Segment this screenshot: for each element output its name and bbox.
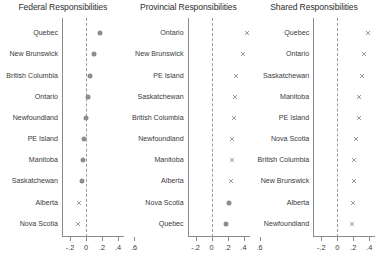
category-label: British Columbia xyxy=(6,72,58,80)
x-tick-label: .2 xyxy=(350,243,356,252)
category-label: Alberta xyxy=(287,199,309,207)
category-label: Ontario xyxy=(35,93,58,101)
x-axis-line xyxy=(62,236,124,237)
category-label: Newfoundland xyxy=(138,135,183,143)
data-point-cross xyxy=(76,221,81,226)
category-label: Alberta xyxy=(161,177,183,185)
category-label: Quebec xyxy=(33,29,58,37)
data-point-cross xyxy=(228,179,233,184)
x-tick-label: -.2 xyxy=(66,243,75,252)
x-tick-label: -.2 xyxy=(317,243,326,252)
panel-title: Provincial Responsibilities xyxy=(126,2,252,12)
x-tick xyxy=(353,237,354,241)
x-tick-label: -.2 xyxy=(191,243,200,252)
x-tick xyxy=(228,237,229,241)
y-axis-line xyxy=(188,18,189,237)
x-tick xyxy=(118,237,119,241)
category-label: PE Island xyxy=(28,135,58,143)
panel-title: Federal Responsibilities xyxy=(0,2,126,12)
data-point-cross xyxy=(356,115,361,120)
data-point-cross xyxy=(230,137,235,142)
x-tick-label: 0 xyxy=(210,243,214,252)
data-point-cross xyxy=(229,158,234,163)
data-point-cross xyxy=(351,179,356,184)
y-axis-line xyxy=(313,18,314,237)
data-point-circle xyxy=(79,179,84,184)
category-label: New Brunswick xyxy=(10,50,59,58)
category-label: Saskatchewan xyxy=(263,72,309,80)
data-point-circle xyxy=(84,115,89,120)
data-point-circle xyxy=(98,31,103,36)
category-label: British Columbia xyxy=(132,114,184,122)
x-tick-label: .2 xyxy=(99,243,105,252)
panel-2: Provincial ResponsibilitiesOntarioNew Br… xyxy=(126,0,252,266)
plot-area: QuebecOntarioSaskatchewanManitobaPE Isla… xyxy=(313,18,373,237)
zero-reference-line xyxy=(337,18,338,237)
x-tick xyxy=(244,237,245,241)
data-point-circle xyxy=(226,200,231,205)
data-point-circle xyxy=(81,137,86,142)
data-point-cross xyxy=(351,200,356,205)
data-point-cross xyxy=(240,52,245,57)
category-label: Nova Scotia xyxy=(145,199,183,207)
category-label: Nova Scotia xyxy=(271,135,309,143)
x-tick xyxy=(369,237,370,241)
data-point-cross xyxy=(365,31,370,36)
category-label: New Brunswick xyxy=(261,177,310,185)
panel-3: Shared ResponsibilitiesQuebecOntarioSask… xyxy=(251,0,377,266)
zero-reference-line xyxy=(212,18,213,237)
x-tick-label: 0 xyxy=(84,243,88,252)
data-point-cross xyxy=(351,158,356,163)
data-point-cross xyxy=(77,200,82,205)
x-tick-label: .4 xyxy=(366,243,372,252)
x-tick xyxy=(102,237,103,241)
data-point-cross xyxy=(233,73,238,78)
x-tick-label: .4 xyxy=(115,243,121,252)
data-point-cross xyxy=(354,137,359,142)
data-point-circle xyxy=(81,158,86,163)
data-point-cross xyxy=(232,94,237,99)
x-tick-label: .4 xyxy=(241,243,247,252)
category-label: British Columbia xyxy=(258,156,310,164)
x-tick xyxy=(337,237,338,241)
category-label: Quebec xyxy=(284,29,309,37)
y-axis-line xyxy=(62,18,63,237)
data-point-cross xyxy=(361,52,366,57)
category-label: PE Island xyxy=(279,114,309,122)
category-label: Newfoundland xyxy=(264,220,309,228)
panel-title: Shared Responsibilities xyxy=(251,2,377,12)
data-point-cross xyxy=(359,73,364,78)
category-label: Manitoba xyxy=(154,156,183,164)
data-point-circle xyxy=(88,73,93,78)
x-tick xyxy=(212,237,213,241)
x-tick-label: 0 xyxy=(335,243,339,252)
data-point-cross xyxy=(357,94,362,99)
category-label: Ontario xyxy=(286,50,309,58)
data-point-circle xyxy=(92,52,97,57)
x-tick xyxy=(321,237,322,241)
dot-plot-figure: Federal ResponsibilitiesQuebecNew Brunsw… xyxy=(0,0,377,266)
x-tick xyxy=(70,237,71,241)
x-axis-line xyxy=(313,236,375,237)
data-point-circle xyxy=(86,94,91,99)
x-axis-line xyxy=(188,236,250,237)
data-point-cross xyxy=(231,115,236,120)
category-label: Manitoba xyxy=(280,93,309,101)
x-tick xyxy=(86,237,87,241)
plot-area: QuebecNew BrunswickBritish ColumbiaOntar… xyxy=(62,18,122,237)
category-label: Saskatchewan xyxy=(137,93,183,101)
category-label: PE Island xyxy=(153,72,183,80)
x-tick xyxy=(196,237,197,241)
zero-reference-line xyxy=(86,18,87,237)
category-label: New Brunswick xyxy=(135,50,184,58)
data-point-cross xyxy=(349,221,354,226)
category-label: Newfoundland xyxy=(13,114,58,122)
category-label: Ontario xyxy=(160,29,183,37)
data-point-cross xyxy=(244,31,249,36)
category-label: Saskatchewan xyxy=(12,177,58,185)
plot-area: OntarioNew BrunswickPE IslandSaskatchewa… xyxy=(188,18,248,237)
panel-1: Federal ResponsibilitiesQuebecNew Brunsw… xyxy=(0,0,126,266)
x-tick-label: .2 xyxy=(225,243,231,252)
category-label: Nova Scotia xyxy=(20,220,58,228)
category-label: Quebec xyxy=(159,220,184,228)
